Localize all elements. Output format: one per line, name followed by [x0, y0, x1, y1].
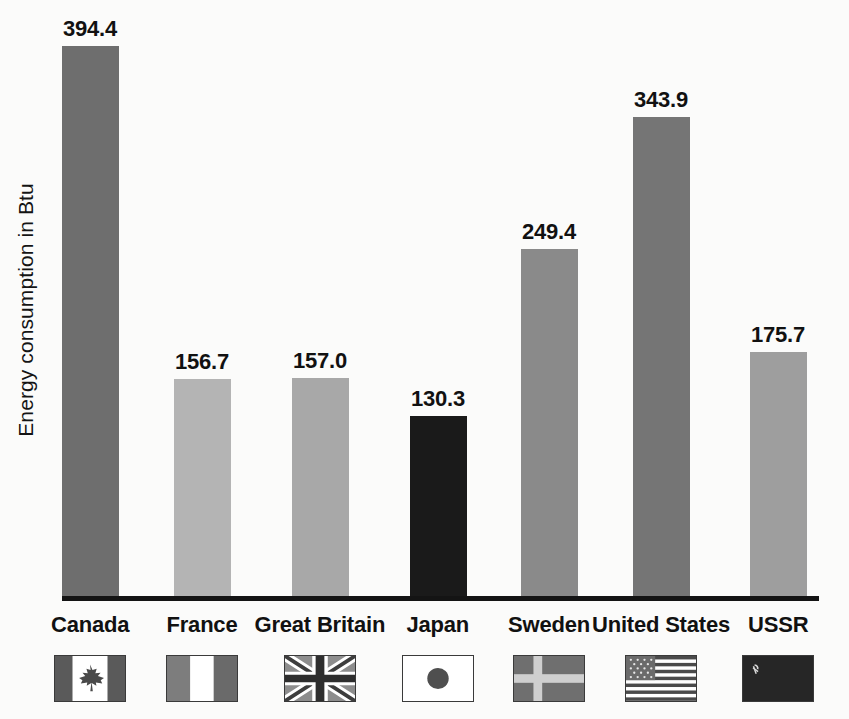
bar-group: 130.3	[410, 0, 467, 598]
bar-chart: Energy consumption in Btu 394.4156.7157.…	[0, 0, 849, 719]
bar-group: 343.9	[633, 0, 690, 598]
category-label: United States	[592, 612, 730, 638]
category-label: Japan	[407, 612, 470, 638]
bar[interactable]	[62, 46, 119, 598]
bar-value-label: 249.4	[522, 219, 576, 245]
flag-cell	[742, 655, 814, 702]
category-label: Great Britain	[255, 612, 386, 638]
bar[interactable]	[633, 117, 690, 598]
bar[interactable]	[521, 249, 578, 598]
flag-cell	[54, 655, 126, 702]
bar-value-label: 156.7	[175, 349, 229, 375]
bar-group: 175.7	[750, 0, 807, 598]
category-label-row: CanadaFranceGreat BritainJapanSwedenUnit…	[0, 612, 849, 646]
canada-flag-icon	[54, 655, 126, 702]
flag-cell	[284, 655, 356, 702]
bar-value-label: 343.9	[634, 87, 688, 113]
plot-area: 394.4156.7157.0130.3249.4343.9175.7	[62, 0, 819, 600]
japan-flag-icon	[402, 655, 474, 702]
category-label: Canada	[51, 612, 129, 638]
y-axis-title-text: Energy consumption in Btu	[14, 183, 38, 436]
flag-row	[0, 655, 849, 707]
category-label: Sweden	[508, 612, 590, 638]
y-axis-title: Energy consumption in Btu	[6, 150, 46, 470]
bar[interactable]	[174, 379, 231, 598]
category-label: USSR	[748, 612, 808, 638]
x-axis-baseline	[62, 596, 819, 601]
great-britain-flag-icon	[284, 655, 356, 702]
flag-cell	[625, 655, 697, 702]
flag-cell	[513, 655, 585, 702]
sweden-flag-icon	[513, 655, 585, 702]
bar-group: 249.4	[521, 0, 578, 598]
bar-group: 157.0	[292, 0, 349, 598]
bar[interactable]	[292, 378, 349, 598]
bar[interactable]	[410, 416, 467, 598]
bar-value-label: 157.0	[293, 348, 347, 374]
bar-value-label: 394.4	[63, 16, 117, 42]
bar[interactable]	[750, 352, 807, 598]
ussr-flag-icon	[742, 655, 814, 702]
bar-group: 394.4	[62, 0, 119, 598]
flag-cell	[402, 655, 474, 702]
category-label: France	[167, 612, 238, 638]
bar-group: 156.7	[174, 0, 231, 598]
bar-value-label: 130.3	[411, 386, 465, 412]
france-flag-icon	[166, 655, 238, 702]
bar-value-label: 175.7	[751, 322, 805, 348]
united-states-flag-icon	[625, 655, 697, 702]
flag-cell	[166, 655, 238, 702]
